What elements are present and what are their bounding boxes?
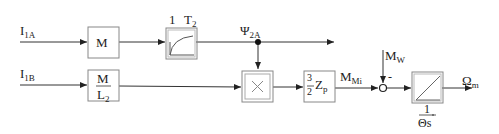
text-gain-l2-denominator: L2 xyxy=(97,88,109,104)
text-pt1-time-constant: T2 xyxy=(184,13,196,29)
label-psi2a: Ψ2A xyxy=(240,24,261,40)
text-pt1-gain: 1 xyxy=(169,13,176,26)
label-minus-sign: - xyxy=(388,71,392,83)
label-mmi: MMi xyxy=(340,70,362,86)
integrator-ramp-icon xyxy=(416,76,440,100)
text-torque-gain-num: 3 xyxy=(307,73,312,83)
text-integrator-num: 1 xyxy=(424,103,430,115)
block-integrator xyxy=(412,72,443,103)
text-gain-m: M xyxy=(96,36,108,49)
pt1-step-response-icon xyxy=(170,36,194,55)
text-torque-gain-zp: Zp xyxy=(315,78,327,94)
text-gain-m-numerator: M xyxy=(97,72,109,85)
multiply-icon xyxy=(252,81,263,92)
block-pt1 xyxy=(166,28,197,59)
label-i1a: I1A xyxy=(20,24,35,40)
summing-junction xyxy=(380,85,387,92)
label-omega-m: Ωm xyxy=(462,74,479,90)
label-i1b: I1B xyxy=(20,67,35,83)
text-torque-gain-den: 2 xyxy=(307,87,312,97)
label-mw: MW xyxy=(385,49,405,65)
wire-ml2-to-mult xyxy=(119,86,241,87)
text-integrator-den: Θs xyxy=(418,117,431,129)
